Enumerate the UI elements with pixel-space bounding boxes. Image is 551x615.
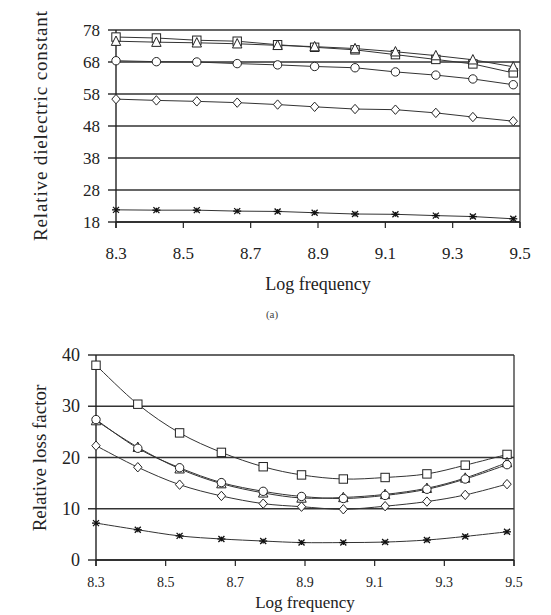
asterisk-marker-icon [217,536,225,542]
diamond-marker-icon [112,94,120,103]
circle-marker-icon [175,464,183,472]
asterisk-marker-icon [381,539,389,545]
diamond-marker-icon [134,463,142,472]
x-tick-label: 8.5 [157,575,175,590]
y-tick-label: 10 [62,499,80,519]
asterisk-marker-icon [193,207,201,213]
y-tick-label: 28 [83,181,100,200]
panel-a-caption: (a) [266,308,279,321]
asterisk-marker-icon [298,540,306,546]
x-tick-label: 8.5 [173,244,194,263]
y-axis-title: Relative dielectric constant [30,10,51,241]
asterisk-marker-icon [112,207,120,213]
y-tick-label: 20 [62,448,80,468]
series-circle-markers [92,415,511,502]
series-asterisk [96,523,507,543]
diamond-marker-icon [461,490,469,499]
circle-marker-icon [381,491,389,499]
square-marker-icon [259,463,267,471]
loss-factor-chart: 0102030408.38.58.78.99.19.39.5Log freque… [29,345,523,612]
asterisk-marker-icon [274,208,282,214]
asterisk-marker-icon [176,533,184,539]
square-marker-icon [175,429,183,437]
asterisk-marker-icon [259,538,267,544]
square-marker-icon [134,400,142,408]
series-square [96,365,507,479]
x-axis-title: Log frequency [255,593,355,612]
diamond-marker-icon [233,98,241,107]
x-tick-label: 9.1 [366,575,384,590]
y-tick-label: 78 [83,21,100,40]
diamond-marker-icon [175,480,183,489]
series-triangle [96,421,507,499]
circle-marker-icon [351,64,359,72]
diamond-marker-icon [423,497,431,506]
diamond-marker-icon [432,108,440,117]
diamond-marker-icon [381,501,389,510]
diamond-marker-icon [297,502,305,511]
square-marker-icon [423,470,431,478]
x-tick-label: 9.1 [375,244,396,263]
circle-marker-icon [469,75,477,83]
diamond-marker-icon [259,499,267,508]
y-tick-label: 48 [83,117,100,136]
diamond-marker-icon [273,100,281,109]
x-tick-label: 8.3 [87,575,105,590]
y-tick-label: 18 [83,213,100,232]
circle-marker-icon [134,444,142,452]
series-line [96,523,507,543]
diamond-marker-icon [509,117,517,126]
asterisk-marker-icon [92,520,100,526]
diamond-marker-icon [193,97,201,106]
asterisk-marker-icon [509,216,517,222]
asterisk-marker-icon [469,214,477,220]
circle-marker-icon [432,71,440,79]
circle-marker-icon [423,485,431,493]
circle-marker-icon [461,475,469,483]
circle-marker-icon [259,487,267,495]
x-tick-label: 8.7 [227,575,245,590]
diamond-marker-icon [310,102,318,111]
x-tick-label: 8.3 [105,244,126,263]
asterisk-marker-icon [461,533,469,539]
square-marker-icon [92,361,100,369]
x-tick-label: 8.9 [296,575,314,590]
series-line [96,420,507,499]
circle-marker-icon [509,81,517,89]
circle-marker-icon [339,494,347,502]
circle-marker-icon [273,61,281,69]
circle-marker-icon [503,460,511,468]
y-tick-label: 68 [83,53,100,72]
asterisk-marker-icon [134,527,142,533]
figure-canvas: 182838485868788.38.58.78.99.19.39.5Log f… [0,0,551,615]
circle-marker-icon [217,478,225,486]
circle-marker-icon [391,68,399,76]
y-tick-label: 40 [62,345,80,365]
x-tick-label: 9.5 [505,575,523,590]
series-circle [96,420,507,499]
square-marker-icon [381,473,389,481]
asterisk-marker-icon [432,213,440,219]
asterisk-marker-icon [339,540,347,546]
series-line [96,421,507,499]
circle-marker-icon [297,492,305,500]
diamond-marker-icon [339,505,347,514]
series-triangle-markers [91,415,511,502]
asterisk-marker-icon [423,537,431,543]
dielectric-constant-chart: 182838485868788.38.58.78.99.19.39.5Log f… [30,10,531,294]
x-tick-label: 8.9 [307,244,328,263]
diamond-marker-icon [503,479,511,488]
x-tick-label: 9.5 [509,244,530,263]
y-tick-label: 58 [83,85,100,104]
diamond-marker-icon [92,441,100,450]
diamond-marker-icon [469,112,477,121]
series-diamond-markers [112,94,518,125]
square-marker-icon [339,475,347,483]
series-square-markers [92,361,511,483]
square-marker-icon [461,461,469,469]
square-marker-icon [297,471,305,479]
series-asterisk-markers [112,207,517,222]
diamond-marker-icon [391,105,399,114]
y-tick-label: 30 [62,396,80,416]
asterisk-marker-icon [391,211,399,217]
